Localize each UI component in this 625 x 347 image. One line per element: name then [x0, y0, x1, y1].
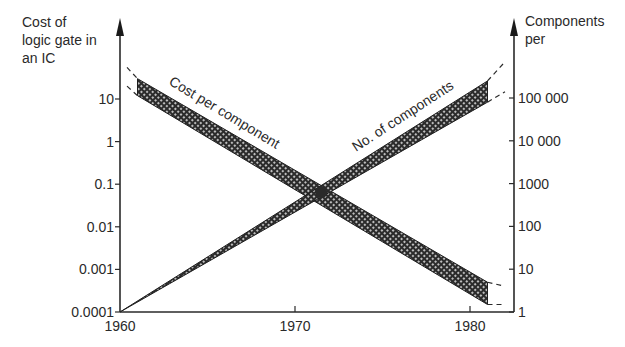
- left-y-tick-label: 0.01: [87, 219, 114, 235]
- right-y-tick-label: 100: [518, 218, 542, 234]
- right-y-tick-label: 10 000: [518, 133, 561, 149]
- intersection-marker: [315, 186, 327, 198]
- right-axis-title-line: Components: [525, 13, 604, 29]
- left-axis-title-line: logic gate in: [22, 32, 97, 48]
- x-tick-label: 1980: [454, 318, 485, 334]
- right-axis-title-line: per: [525, 31, 546, 47]
- left-axis-arrow-icon: [116, 18, 124, 36]
- left-axis-title-line: Cost of: [22, 14, 66, 30]
- bands-layer: [120, 62, 505, 312]
- right-y-tick-label: 1: [518, 304, 526, 320]
- chart: 1010.10.010.0010.0001100 00010 000100010…: [0, 0, 625, 347]
- right-y-tick-label: 1000: [518, 176, 549, 192]
- left-y-tick-label: 0.001: [79, 261, 114, 277]
- x-tick-label: 1970: [279, 318, 310, 334]
- right-axis-arrow-icon: [510, 18, 518, 36]
- labels-layer: 1010.10.010.0010.0001100 00010 000100010…: [22, 13, 604, 334]
- cost-band-dashed-extension: [127, 67, 138, 78]
- left-y-tick-label: 10: [98, 91, 114, 107]
- components-band-dashed-extension: [488, 62, 506, 81]
- left-axis-title-line: an IC: [22, 50, 55, 66]
- left-y-tick-label: 1: [106, 134, 114, 150]
- left-y-tick-label: 0.1: [95, 176, 115, 192]
- right-y-tick-label: 10: [518, 261, 534, 277]
- components-band-dashed-extension: [488, 92, 506, 102]
- right-y-tick-label: 100 000: [518, 90, 569, 106]
- cost-band-dashed-extension: [488, 282, 506, 286]
- cost-band-dashed-extension: [127, 86, 138, 95]
- x-tick-label: 1960: [104, 318, 135, 334]
